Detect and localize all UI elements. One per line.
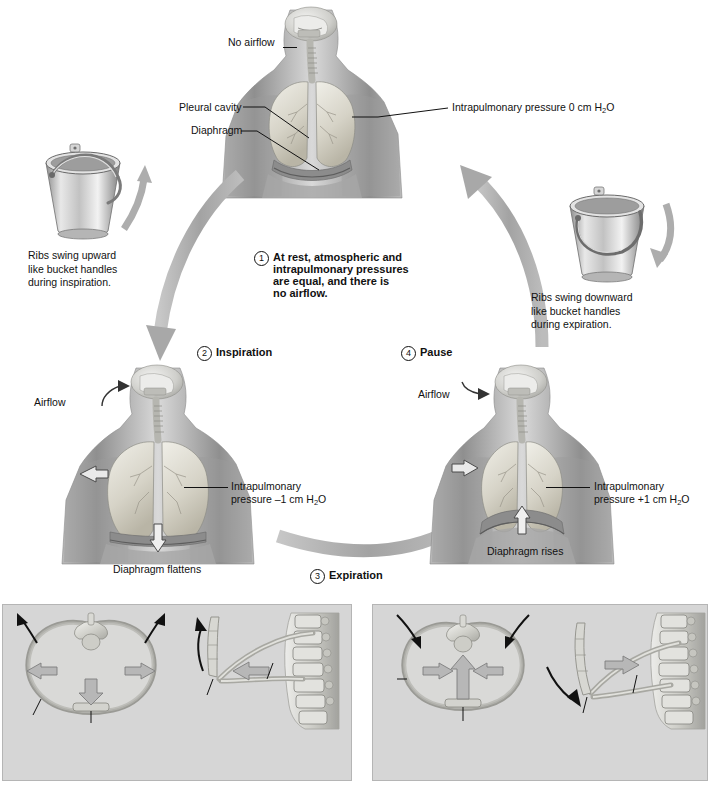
step-3-caption: 3 Expiration [310, 569, 383, 584]
step-3-number: 3 [310, 569, 325, 584]
step-1-line4: no airflow. [273, 287, 328, 299]
step-4-label: Pause [420, 346, 452, 358]
step-4-caption: 4 Pause [401, 346, 452, 361]
inset-left-transverse-illustration [11, 609, 171, 734]
label-diaphragm-rises: Diaphragm rises [487, 545, 563, 558]
inset-right-transverse-illustration [383, 609, 543, 734]
intrapulmonary-pressure-text: Intrapulmonary pressure 0 cm H [452, 101, 602, 113]
step-1-line2: intrapulmonary pressures [273, 263, 409, 275]
inset-panel-inspiration: Rib Sternum Ribs elevated, thoracic cavi… [2, 604, 352, 781]
label-airflow-pause: Airflow [418, 388, 450, 401]
bucket-left-illustration [32, 133, 162, 243]
leader-intrapulmonary-rest [352, 101, 452, 123]
inset-right-lateral-illustration [533, 609, 708, 734]
step-1-text: At rest, atmospheric and intrapulmonary … [273, 251, 409, 299]
caption-bucket-right-line3: during expiration. [531, 318, 701, 332]
caption-bucket-left-line2: like bucket handles [28, 263, 178, 277]
step-3-label: Expiration [329, 569, 383, 581]
step-2-label: Inspiration [216, 346, 272, 358]
inset-left-lateral-illustration [163, 609, 343, 734]
caption-bucket-right-line1: Ribs swing downward [531, 291, 701, 305]
torso-pause [422, 364, 622, 564]
leader-no-airflow [283, 47, 297, 48]
step-2-number: 2 [197, 346, 212, 361]
leader-inspiration-pressure [184, 487, 228, 488]
caption-bucket-left: Ribs swing upward like bucket handles du… [28, 249, 178, 290]
caption-bucket-right-line2: like bucket handles [531, 305, 701, 319]
caption-bucket-left-line1: Ribs swing upward [28, 249, 178, 263]
inspiration-pressure-tail: O [318, 493, 326, 505]
label-pleural-cavity: Pleural cavity [179, 101, 241, 114]
leader-pause-pressure [546, 487, 590, 488]
label-intrapulmonary-pressure-rest: Intrapulmonary pressure 0 cm H2O [452, 101, 614, 117]
label-intrapulmonary-pressure-inspiration: Intrapulmonary pressure –1 cm H2O [231, 480, 341, 509]
pause-pressure-line2: pressure +1 cm H [594, 493, 677, 505]
inset-panel-expiration: Rib Sternum Ribs depressed, thoracic cav… [372, 604, 708, 781]
step-2-caption: 2 Inspiration [197, 346, 272, 361]
inspiration-pressure-line1: Intrapulmonary [231, 480, 301, 492]
label-intrapulmonary-pressure-pause: Intrapulmonary pressure +1 cm H2O [594, 480, 706, 509]
intrapulmonary-pressure-tail: O [606, 101, 614, 113]
respiratory-cycle-figure: No airflow Pleural cavity Diaphragm Intr… [0, 0, 708, 785]
label-diaphragm-flattens: Diaphragm flattens [113, 563, 201, 576]
step-1-number: 1 [254, 251, 269, 266]
pause-pressure-tail: O [681, 493, 689, 505]
caption-bucket-left-line3: during inspiration. [28, 276, 178, 290]
pause-pressure-line1: Intrapulmonary [594, 480, 664, 492]
label-diaphragm-top: Diaphragm [191, 124, 242, 137]
label-no-airflow: No airflow [228, 36, 275, 49]
step-4-number: 4 [401, 346, 416, 361]
caption-bucket-right: Ribs swing downward like bucket handles … [531, 291, 701, 332]
inspiration-pressure-line2: pressure –1 cm H [231, 493, 314, 505]
step-1-caption: 1 At rest, atmospheric and intrapulmonar… [254, 251, 444, 299]
step-1-line3: are equal, and there is [273, 275, 389, 287]
torso-inspiration [58, 364, 258, 564]
bucket-right-illustration [556, 174, 696, 284]
step-1-line1: At rest, atmospheric and [273, 251, 402, 263]
label-airflow-inspiration: Airflow [34, 396, 66, 409]
